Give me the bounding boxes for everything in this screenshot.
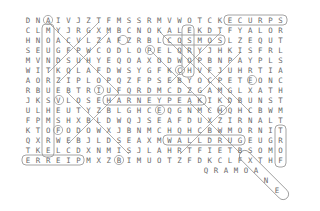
overflow-grid-letter[interactable]: N — [264, 176, 268, 185]
grid-letter[interactable]: M — [46, 26, 51, 35]
grid-letter[interactable]: Y — [137, 66, 142, 75]
grid-letter[interactable]: X — [147, 136, 152, 145]
grid-letter[interactable]: K — [167, 66, 172, 75]
grid-letter[interactable]: N — [258, 96, 262, 105]
grid-letter[interactable]: P — [76, 46, 81, 55]
overflow-grid-letter[interactable]: A — [254, 166, 259, 175]
grid-letter[interactable]: J — [86, 136, 90, 145]
grid-letter[interactable]: V — [76, 36, 81, 45]
grid-letter[interactable]: I — [268, 126, 272, 135]
grid-letter[interactable]: F — [137, 76, 142, 85]
grid-letter[interactable]: T — [46, 66, 51, 75]
grid-letter[interactable]: O — [66, 126, 71, 135]
grid-letter[interactable]: O — [268, 26, 273, 35]
grid-letter[interactable]: R — [278, 136, 283, 145]
grid-letter[interactable]: Y — [86, 106, 91, 115]
grid-letter[interactable]: M — [107, 146, 112, 155]
grid-letter[interactable]: Y — [187, 76, 192, 85]
grid-letter[interactable]: S — [187, 36, 191, 45]
grid-letter[interactable]: Y — [248, 56, 253, 65]
grid-letter[interactable]: D — [56, 56, 60, 65]
grid-letter[interactable]: A — [258, 116, 263, 125]
grid-letter[interactable]: O — [96, 76, 101, 85]
grid-letter[interactable]: Y — [197, 46, 202, 55]
grid-letter[interactable]: U — [66, 106, 70, 115]
grid-letter[interactable]: N — [137, 96, 141, 105]
grid-letter[interactable]: C — [96, 46, 100, 55]
grid-letter[interactable]: R — [278, 26, 283, 35]
grid-letter[interactable]: R — [46, 76, 51, 85]
grid-letter[interactable]: O — [127, 56, 132, 65]
grid-letter[interactable]: F — [157, 66, 162, 75]
grid-letter[interactable]: P — [76, 156, 81, 165]
grid-letter[interactable]: U — [147, 156, 151, 165]
grid-letter[interactable]: C — [197, 126, 201, 135]
grid-letter[interactable]: Q — [66, 66, 71, 75]
grid-letter[interactable]: C — [26, 26, 30, 35]
grid-letter[interactable]: T — [258, 66, 263, 75]
overflow-grid-letter[interactable]: O — [244, 166, 249, 175]
grid-letter[interactable]: I — [208, 96, 212, 105]
grid-letter[interactable]: D — [208, 26, 212, 35]
grid-letter[interactable]: W — [86, 46, 91, 55]
grid-letter[interactable]: D — [107, 136, 111, 145]
grid-letter[interactable]: B — [76, 136, 81, 145]
grid-letter[interactable]: T — [278, 36, 283, 45]
grid-letter[interactable]: X — [96, 26, 101, 35]
grid-letter[interactable]: A — [238, 56, 243, 65]
grid-letter[interactable]: I — [96, 86, 100, 95]
grid-letter[interactable]: H — [218, 106, 222, 115]
grid-letter[interactable]: Y — [96, 56, 101, 65]
grid-letter[interactable]: G — [86, 26, 90, 35]
grid-letter[interactable]: D — [76, 126, 80, 135]
grid-letter[interactable]: K — [26, 126, 31, 135]
grid-letter[interactable]: F — [117, 86, 122, 95]
grid-letter[interactable]: R — [46, 156, 51, 165]
grid-letter[interactable]: D — [167, 56, 171, 65]
grid-letter[interactable]: P — [228, 56, 233, 65]
grid-letter[interactable]: F — [56, 126, 61, 135]
grid-letter[interactable]: T — [76, 86, 81, 95]
grid-letter[interactable]: S — [117, 136, 121, 145]
grid-letter[interactable]: R — [46, 136, 51, 145]
grid-letter[interactable]: F — [177, 116, 182, 125]
grid-letter[interactable]: A — [137, 136, 142, 145]
grid-letter[interactable]: I — [238, 46, 242, 55]
grid-letter[interactable]: H — [66, 116, 70, 125]
grid-letter[interactable]: P — [36, 116, 41, 125]
grid-letter[interactable]: N — [46, 56, 50, 65]
grid-letter[interactable]: L — [238, 86, 243, 95]
grid-letter[interactable]: E — [228, 76, 232, 85]
grid-letter[interactable]: H — [26, 36, 30, 45]
overflow-grid-letter[interactable]: Q — [204, 166, 209, 175]
grid-letter[interactable]: Z — [127, 76, 132, 85]
grid-letter[interactable]: Q — [177, 126, 182, 135]
grid-letter[interactable]: E — [107, 56, 111, 65]
grid-letter[interactable]: D — [76, 146, 80, 155]
grid-letter[interactable]: Z — [177, 156, 182, 165]
grid-letter[interactable]: S — [127, 146, 131, 155]
grid-letter[interactable]: O — [137, 46, 142, 55]
grid-letter[interactable]: W — [268, 106, 273, 115]
grid-letter[interactable]: K — [157, 26, 162, 35]
grid-letter[interactable]: U — [76, 56, 80, 65]
grid-letter[interactable]: S — [86, 96, 90, 105]
grid-letter[interactable]: H — [167, 146, 171, 155]
grid-letter[interactable]: C — [147, 106, 151, 115]
grid-letter[interactable]: N — [248, 116, 252, 125]
grid-letter[interactable]: L — [177, 26, 182, 35]
grid-letter[interactable]: L — [56, 146, 61, 155]
grid-letter[interactable]: S — [26, 46, 30, 55]
grid-letter[interactable]: A — [56, 36, 61, 45]
grid-letter[interactable]: S — [268, 96, 272, 105]
grid-letter[interactable]: O — [86, 126, 91, 135]
grid-letter[interactable]: Z — [86, 16, 91, 25]
grid-letter[interactable]: M — [268, 146, 273, 155]
grid-letter[interactable]: W — [96, 126, 101, 135]
grid-letter[interactable]: V — [36, 56, 41, 65]
grid-letter[interactable]: G — [147, 66, 151, 75]
grid-letter[interactable]: T — [278, 126, 283, 135]
grid-letter[interactable]: L — [157, 36, 162, 45]
grid-letter[interactable]: U — [26, 106, 30, 115]
grid-letter[interactable]: R — [137, 86, 142, 95]
